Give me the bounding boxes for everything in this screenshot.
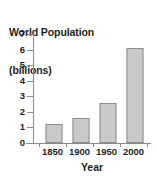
x-axis-line <box>26 143 151 144</box>
x-tick-mark-start <box>39 143 40 147</box>
y-tick-label: 6 <box>20 45 25 55</box>
x-tick-mark-1 <box>66 143 67 147</box>
y-tick-mark <box>27 143 33 144</box>
x-tick-mark-end <box>147 143 148 147</box>
x-tick-label-1850: 1850 <box>42 147 63 157</box>
bar-slot-2000 <box>121 34 148 143</box>
world-population-bar-chart: World Population (billions) 0 1 2 3 4 5 <box>0 0 156 183</box>
y-tick-mark <box>27 65 33 66</box>
x-axis-title: Year <box>33 162 151 173</box>
y-tick-label: 5 <box>20 60 25 70</box>
y-tick-label: 2 <box>20 107 25 117</box>
y-tick-mark <box>27 112 33 113</box>
x-tick-label-1900: 1900 <box>69 147 90 157</box>
y-tick-label: 3 <box>20 92 25 102</box>
y-tick-label: 0 <box>20 138 25 148</box>
y-tick-mark <box>27 127 33 128</box>
bars-layer <box>34 34 151 143</box>
y-tick-mark <box>27 34 33 35</box>
bar-slot-1850 <box>40 34 67 143</box>
y-tick-mark <box>27 81 33 82</box>
y-tick-label: 4 <box>20 76 25 86</box>
x-tick-label-2000: 2000 <box>123 147 144 157</box>
bar-1900 <box>72 118 89 143</box>
bar-1950 <box>99 103 116 143</box>
y-tick-label: 7 <box>20 29 25 39</box>
y-tick-label: 1 <box>20 123 25 133</box>
y-tick-group-0: 0 <box>33 143 34 144</box>
y-tick-mark <box>27 50 33 51</box>
bar-slot-1950 <box>94 34 121 143</box>
bar-slot-1900 <box>67 34 94 143</box>
x-tick-mark-3 <box>120 143 121 147</box>
bar-1850 <box>45 124 62 143</box>
x-tick-label-1950: 1950 <box>96 147 117 157</box>
bar-2000 <box>126 48 143 143</box>
x-tick-mark-2 <box>93 143 94 147</box>
plot-area: 0 1 2 3 4 5 6 7 <box>33 34 151 144</box>
y-tick-mark <box>27 96 33 97</box>
